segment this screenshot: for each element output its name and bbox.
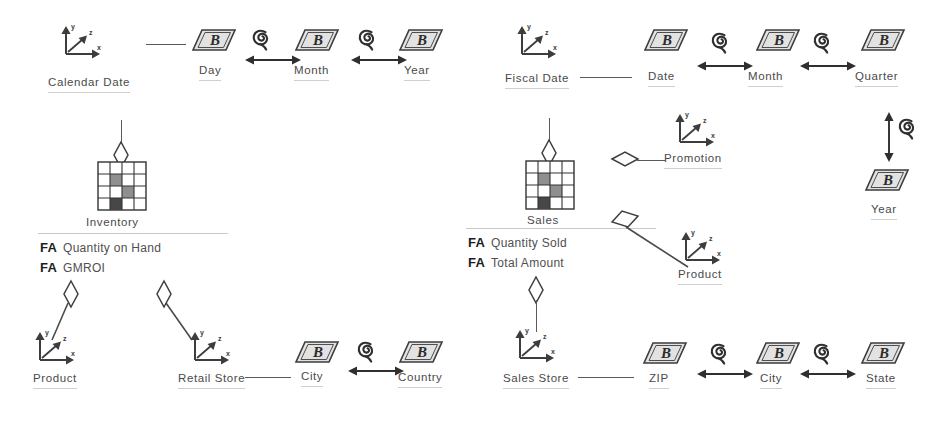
level-label-quarter: Quarter	[855, 70, 898, 87]
level-label-year: Year	[404, 64, 430, 81]
svg-text:B: B	[416, 344, 427, 360]
xyz-axes-icon-fiscal-date: yzx	[520, 24, 560, 60]
svg-text:x: x	[97, 44, 101, 51]
fa-name: GMROI	[63, 261, 105, 275]
parallelogram-b-icon-year-right[interactable]: B	[866, 168, 910, 192]
fact-attribute-row: FAQuantity on Hand	[40, 239, 161, 256]
xyz-axes-icon: yzx	[64, 24, 104, 60]
fa-name: Quantity on Hand	[63, 241, 161, 255]
double-arrow-icon-month-year	[351, 52, 411, 70]
xyz-axes-icon-promotion: yzx	[678, 112, 718, 148]
svg-text:B: B	[312, 344, 323, 360]
level-label-date: Date	[648, 70, 675, 87]
level-label-day: Day	[199, 64, 221, 81]
svg-text:x: x	[711, 132, 715, 139]
diamond-connector-icon-inventory-product	[64, 281, 80, 309]
level-label-state: State	[866, 372, 896, 389]
xyz-axes-icon-product-left: yzx	[38, 330, 78, 366]
svg-text:B: B	[882, 172, 893, 188]
diamond-connector-icon-inventory-retail-store	[157, 281, 173, 309]
svg-text:B: B	[773, 32, 784, 48]
spiral-icon-month-year	[357, 27, 377, 53]
fact-attribute-row: FAGMROI	[40, 259, 105, 276]
spiral-icon-quarter-year	[897, 116, 917, 142]
dimension-label-promotion: Promotion	[664, 152, 722, 169]
svg-text:x: x	[717, 250, 721, 257]
connector-line-retail-store-city	[245, 377, 291, 378]
fa-tag: FA	[40, 240, 57, 255]
svg-text:B: B	[773, 345, 784, 361]
fa-tag: FA	[468, 255, 485, 270]
svg-text:B: B	[660, 345, 671, 361]
double-arrow-icon-city-state	[800, 366, 860, 384]
level-label-month: Month	[294, 64, 329, 81]
xyz-axes-icon-sales-store: yzx	[518, 328, 558, 364]
spiral-icon-day-month	[251, 27, 271, 53]
parallelogram-b-icon-date[interactable]: B	[645, 28, 689, 52]
connector-line-sales-store-zip	[578, 377, 634, 378]
cube-grid-icon-inventory[interactable]	[98, 162, 148, 212]
svg-text:x: x	[226, 350, 230, 357]
xyz-axes-icon-product-right: yzx	[684, 230, 724, 266]
spiral-icon-month-quarter	[812, 30, 832, 56]
parallelogram-b-icon-month-right[interactable]: B	[757, 28, 801, 52]
dimension-label-product-right: Product	[678, 268, 722, 285]
diamond-connector-icon-sales-store	[529, 277, 545, 305]
parallelogram-b-icon-quarter[interactable]: B	[862, 28, 906, 52]
svg-text:x: x	[551, 348, 555, 355]
fact-attribute-row: FAQuantity Sold	[468, 234, 567, 251]
parallelogram-b-icon-country[interactable]: B	[400, 340, 444, 364]
parallelogram-b-icon-state[interactable]: B	[862, 341, 906, 365]
parallelogram-b-icon-month[interactable]: B	[296, 28, 340, 52]
dimension-label-sales-store: Sales Store	[503, 372, 569, 389]
svg-text:x: x	[553, 44, 557, 51]
svg-text:x: x	[71, 350, 75, 357]
spiral-icon-date-month	[710, 30, 730, 56]
fact-label-inventory: Inventory	[86, 216, 139, 232]
dimension-label-fiscal-date: Fiscal Date	[505, 72, 569, 89]
svg-text:B: B	[416, 32, 427, 48]
xyz-axes-icon-retail-store: yzx	[193, 330, 233, 366]
level-label-year-right: Year	[871, 203, 897, 220]
level-label-zip: ZIP	[649, 372, 669, 389]
parallelogram-b-icon-city-left[interactable]: B	[296, 340, 340, 364]
level-label-city-right: City	[760, 372, 782, 389]
parallelogram-b-icon-zip[interactable]: B	[644, 341, 688, 365]
svg-text:z: z	[709, 235, 713, 242]
diagram-canvas: yzx Calendar Date B Day B Month B Year I…	[0, 0, 930, 424]
svg-text:y: y	[200, 329, 204, 337]
connector-line-sales-promotion	[637, 160, 665, 161]
level-label-city-left: City	[301, 370, 323, 387]
svg-text:z: z	[703, 117, 707, 124]
svg-text:z: z	[89, 29, 93, 36]
svg-text:y: y	[71, 23, 75, 31]
parallelogram-b-icon-day[interactable]: B	[193, 28, 237, 52]
spiral-icon-city-country	[356, 339, 376, 365]
fact-attribute-row: FATotal Amount	[468, 254, 564, 271]
level-label-country: Country	[398, 371, 442, 388]
fa-divider-inventory	[38, 233, 228, 234]
dimension-label-retail-store: Retail Store	[178, 372, 245, 389]
double-arrow-icon-zip-city	[697, 366, 757, 384]
fa-name: Total Amount	[491, 256, 564, 270]
svg-text:B: B	[878, 32, 889, 48]
double-arrow-icon-month-quarter	[800, 58, 860, 76]
cube-grid-icon-sales[interactable]	[526, 161, 576, 211]
svg-text:B: B	[878, 345, 889, 361]
svg-text:y: y	[527, 23, 531, 31]
fa-name: Quantity Sold	[491, 236, 567, 250]
parallelogram-b-icon-city-right[interactable]: B	[757, 341, 801, 365]
svg-text:y: y	[685, 111, 689, 119]
svg-text:B: B	[661, 32, 672, 48]
svg-text:y: y	[45, 329, 49, 337]
spiral-icon-zip-city	[709, 341, 729, 367]
parallelogram-b-icon-year[interactable]: B	[400, 28, 444, 52]
fa-tag: FA	[468, 235, 485, 250]
svg-text:z: z	[545, 29, 549, 36]
fa-tag: FA	[40, 260, 57, 275]
svg-text:B: B	[209, 32, 220, 48]
dimension-label-product-left: Product	[33, 372, 77, 389]
svg-text:z: z	[218, 335, 222, 342]
svg-text:z: z	[543, 333, 547, 340]
svg-text:y: y	[525, 327, 529, 335]
